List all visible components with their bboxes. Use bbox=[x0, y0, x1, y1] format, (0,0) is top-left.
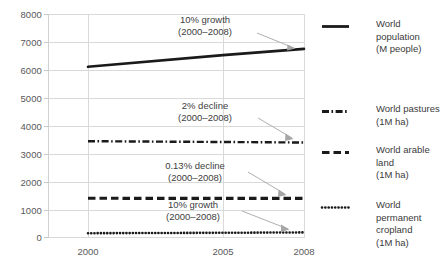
legend-label-world-population: World population (M people) bbox=[376, 18, 444, 56]
legend-marker-dashed-icon bbox=[322, 148, 368, 158]
arrowhead-cropland bbox=[281, 225, 290, 233]
annotation-cropland-line1: 10% growth bbox=[138, 199, 248, 211]
legend-marker-solid-icon bbox=[322, 22, 368, 32]
legend-marker-dash-dot-icon bbox=[322, 107, 368, 117]
series-line-world-population bbox=[88, 49, 304, 67]
annotation-pastures: 2% decline (2000–2008) bbox=[150, 100, 260, 124]
annotation-pastures-line2: (2000–2008) bbox=[150, 112, 260, 124]
legend-label-world-pastures: World pastures (1M ha) bbox=[376, 103, 444, 128]
annotation-population-line1: 10% growth bbox=[150, 14, 260, 26]
legend-marker-dotted-icon bbox=[322, 203, 368, 213]
annotation-population: 10% growth (2000–2008) bbox=[150, 14, 260, 38]
series-line-world-pastures bbox=[88, 141, 304, 142]
annotation-pastures-line1: 2% decline bbox=[150, 100, 260, 112]
annotation-arrows bbox=[242, 33, 296, 232]
legend-label-world-permanent-cropland: World permanent cropland (1M ha) bbox=[376, 199, 444, 249]
annotation-cropland-line2: (2000–2008) bbox=[138, 211, 248, 223]
series-line-world-permanent-cropland bbox=[88, 232, 304, 233]
annotation-arable-line2: (2000–2008) bbox=[140, 172, 250, 184]
legend-label-world-arable-land: World arable land (1M ha) bbox=[376, 144, 444, 182]
arrowhead-arable bbox=[278, 190, 287, 198]
annotation-cropland: 10% growth (2000–2008) bbox=[138, 199, 248, 223]
annotation-arable-line1: 0.13% decline bbox=[140, 160, 250, 172]
arrowhead-pastures bbox=[285, 134, 294, 142]
annotation-population-line2: (2000–2008) bbox=[150, 26, 260, 38]
annotation-arable: 0.13% decline (2000–2008) bbox=[140, 160, 250, 184]
